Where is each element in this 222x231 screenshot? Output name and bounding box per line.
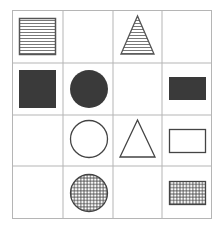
cell-r4c4-crosshatch-rectangle xyxy=(170,182,206,205)
cell-r2c4-solid-rectangle xyxy=(169,77,206,100)
cell-r3c2-outline-circle xyxy=(71,121,108,158)
cell-r2c1-solid-square xyxy=(19,70,56,108)
shape-puzzle-grid xyxy=(12,10,212,219)
cell-r3c4-outline-rectangle xyxy=(170,130,206,153)
cell-r3c3-outline-triangle xyxy=(120,120,155,157)
cell-r1c1-striped-square xyxy=(20,19,56,55)
cell-r2c2-solid-circle xyxy=(70,70,108,108)
cell-r4c2-crosshatch-circle xyxy=(71,175,108,212)
cell-r1c3-striped-triangle xyxy=(121,16,154,54)
